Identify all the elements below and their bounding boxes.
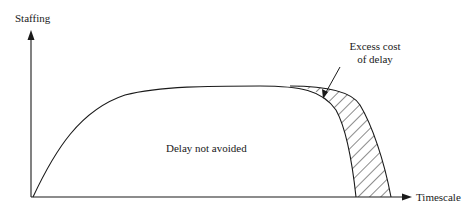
x-axis-arrow-icon — [402, 194, 412, 201]
x-axis-label: Timescale — [416, 191, 461, 204]
annotation-label: Excess cost of delay — [335, 40, 415, 66]
staffing-diagram — [0, 0, 476, 215]
region-label: Delay not avoided — [166, 142, 247, 155]
y-axis-arrow-icon — [28, 30, 35, 40]
y-axis-label: Staffing — [15, 12, 50, 25]
annotation-line-1: Excess cost — [335, 40, 415, 53]
annotation-line-2: of delay — [335, 53, 415, 66]
